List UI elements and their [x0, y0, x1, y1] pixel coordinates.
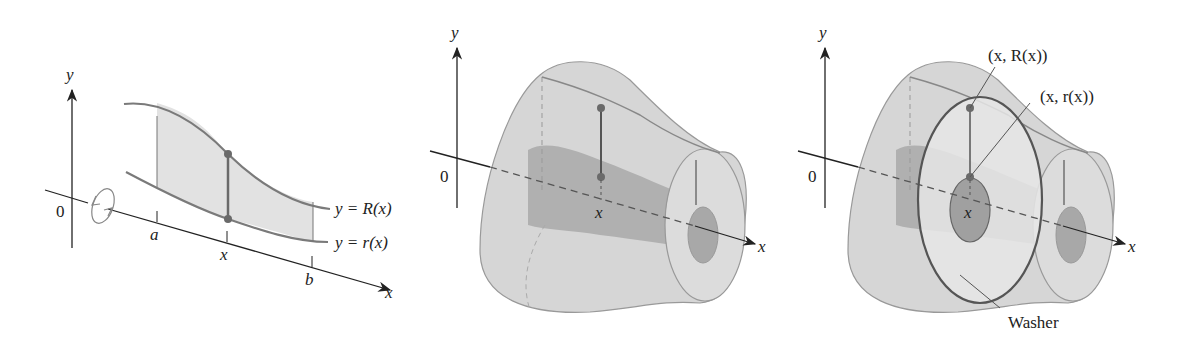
origin-label: 0 [808, 167, 817, 186]
end-hole [1056, 207, 1086, 263]
x-axis-left [798, 151, 858, 167]
point-inner-label: (x, r(x)) [1040, 87, 1094, 106]
washer-method-figure: y x 0 a x b y = R(x) y = r(x) [0, 0, 1177, 348]
tick-a-label: a [150, 225, 159, 244]
x-axis-left [430, 151, 490, 167]
y-axis-label: y [817, 23, 827, 42]
y-axis-label: y [64, 65, 74, 84]
x-axis-left [45, 190, 88, 203]
tick-x-label: x [963, 203, 972, 222]
point-lower [224, 215, 232, 223]
point-lower [597, 173, 605, 181]
panel-washer: y 0 x x (x, R(x)) (x, r(x)) Washer [798, 23, 1136, 332]
point-upper [224, 150, 232, 158]
panel-region: y x 0 a x b y = R(x) y = r(x) [45, 65, 393, 302]
lower-curve-label: y = r(x) [333, 233, 388, 252]
origin-label: 0 [440, 167, 449, 186]
washer-disk [918, 97, 1042, 303]
x-axis-label: x [1127, 237, 1136, 256]
origin-label: 0 [56, 202, 65, 221]
point-outer-label: (x, R(x)) [988, 46, 1047, 65]
washer-label: Washer [1008, 313, 1059, 332]
rotation-arrow-icon [87, 186, 118, 227]
tick-x-label: x [594, 203, 603, 222]
y-axis-label: y [449, 23, 459, 42]
tick-b-label: b [305, 270, 314, 289]
upper-curve-label: y = R(x) [333, 199, 392, 218]
x-axis-label: x [384, 283, 393, 302]
end-hole [688, 207, 718, 263]
x-axis-label: x [757, 237, 766, 256]
point-upper [597, 104, 605, 112]
panel-solid: y 0 x x [430, 23, 766, 312]
tick-x-label: x [219, 245, 228, 264]
